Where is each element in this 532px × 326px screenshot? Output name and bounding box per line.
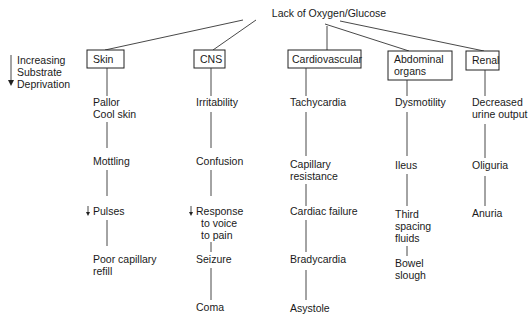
abd-item-4b: slough	[395, 269, 426, 281]
legend: Increasing Substrate Deprivation	[8, 54, 70, 90]
down-arrow-icon-head	[8, 80, 14, 86]
down-arrow-icon-head	[189, 212, 193, 216]
abd-item-2: Ileus	[395, 159, 417, 171]
renal-item-1a: Decreased	[472, 96, 523, 108]
column-cns: Irritability Confusion Response to voice…	[189, 68, 243, 313]
skin-item-1b: Cool skin	[93, 108, 136, 120]
cns-item-5: Coma	[196, 301, 224, 313]
flow-diagram: Lack of Oxygen/Glucose Increasing Substr…	[0, 0, 532, 326]
legend-line-2: Substrate	[17, 66, 62, 78]
header-skin: Skin	[93, 53, 114, 65]
down-arrow-icon-head	[86, 212, 90, 216]
header-cns: CNS	[200, 53, 222, 65]
cardio-item-4: Bradycardia	[290, 253, 346, 265]
cns-item-3b: to voice	[201, 217, 237, 229]
cns-item-4: Seizure	[196, 253, 232, 265]
renal-item-2: Oliguria	[472, 159, 508, 171]
legend-line-1: Increasing	[17, 54, 66, 66]
column-abdominal-organs: Dysmotility Ileus Third spacing fluids B…	[395, 80, 447, 281]
header-boxes: Skin CNS Cardiovascular Abdominal organs…	[87, 50, 499, 80]
header-abdominal-1: Abdominal	[394, 53, 444, 65]
cns-item-3c: to pain	[201, 229, 233, 241]
skin-item-4b: refill	[93, 265, 112, 277]
cardio-item-5: Asystole	[290, 302, 330, 314]
abd-item-1: Dysmotility	[395, 96, 447, 108]
abd-item-4a: Bowel	[395, 257, 424, 269]
skin-item-1a: Pallor	[93, 96, 120, 108]
renal-item-3: Anuria	[472, 207, 503, 219]
column-cardiovascular: Tachycardia Capillary resistance Cardiac…	[290, 68, 358, 314]
cns-item-2: Confusion	[196, 155, 243, 167]
skin-item-4a: Poor capillary	[93, 253, 157, 265]
column-renal: Decreased urine output Oliguria Anuria	[472, 70, 528, 219]
legend-line-3: Deprivation	[17, 78, 70, 90]
cardio-item-3: Cardiac failure	[290, 205, 358, 217]
renal-item-1b: urine output	[472, 108, 528, 120]
root-label: Lack of Oxygen/Glucose	[272, 7, 387, 19]
skin-item-2: Mottling	[93, 155, 130, 167]
cardio-item-2b: resistance	[290, 170, 338, 182]
cardio-item-1: Tachycardia	[290, 96, 346, 108]
cns-item-1: Irritability	[196, 96, 239, 108]
abd-item-3b: spacing	[395, 220, 431, 232]
skin-item-3: Pulses	[93, 205, 125, 217]
header-renal: Renal	[472, 54, 499, 66]
cardio-item-2a: Capillary	[290, 158, 332, 170]
header-abdominal-2: organs	[394, 65, 426, 77]
root-connectors	[105, 20, 484, 51]
abd-item-3c: fluids	[395, 232, 420, 244]
header-cardiovascular: Cardiovascular	[292, 53, 363, 65]
cns-item-3a: Response	[196, 205, 243, 217]
abd-item-3a: Third	[395, 208, 419, 220]
column-skin: Pallor Cool skin Mottling Pulses Poor ca…	[86, 68, 157, 277]
